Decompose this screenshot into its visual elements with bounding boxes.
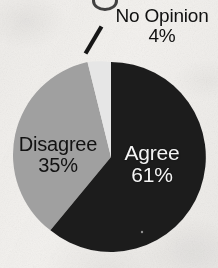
slice-label-disagree: Disagree 35%: [10, 134, 106, 176]
slice-label-no-opinion: No Opinion 4%: [108, 6, 216, 46]
slice-label-agree-name: Agree: [124, 141, 179, 164]
slice-label-no-opinion-name: No Opinion: [115, 5, 208, 26]
leader-line-icon: [86, 27, 102, 54]
slice-label-disagree-name: Disagree: [19, 133, 97, 155]
scan-speck: [141, 231, 143, 233]
slice-label-agree-percent: 61%: [106, 164, 198, 185]
slice-label-no-opinion-percent: 4%: [108, 26, 216, 45]
slice-label-agree: Agree 61%: [106, 142, 198, 186]
pie-chart-figure: Agree 61% Disagree 35% No Opinion 4%: [0, 0, 218, 268]
slice-label-disagree-percent: 35%: [10, 155, 106, 175]
